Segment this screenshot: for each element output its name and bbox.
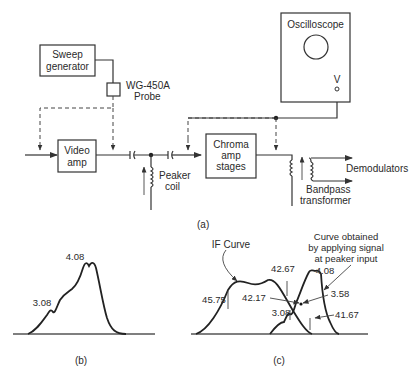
- bandpass-transformer: Bandpass transformer: [290, 157, 352, 206]
- c-marker-4-08: 4.08: [316, 265, 335, 276]
- chroma-alignment-diagram: Sweep generator WG-450A Probe Video amp: [0, 0, 420, 377]
- oscilloscope-title: Oscilloscope: [287, 19, 344, 30]
- peaker-curve-label-3: at peaker input: [315, 253, 378, 264]
- oscilloscope: Oscilloscope V: [281, 13, 350, 102]
- b-marker-3-08: 3.08: [33, 297, 52, 308]
- sweep-generator-label-2: generator: [46, 61, 89, 72]
- if-curve-label: IF Curve: [212, 239, 251, 250]
- scope-input-terminal: [335, 87, 339, 91]
- figure-a-block-diagram: Sweep generator WG-450A Probe Video amp: [25, 13, 408, 230]
- scope-input-label: V: [334, 74, 341, 85]
- c-marker-42-67: 42.67: [271, 263, 295, 274]
- chroma-amp-label-1: Chroma: [213, 139, 249, 150]
- c-marker-45-75: 45.75: [202, 294, 226, 305]
- chroma-amp-label-3: stages: [216, 161, 245, 172]
- chroma-amp-stages-block: Chroma amp stages: [206, 134, 256, 178]
- c-marker-42-17: 42.17: [242, 292, 266, 303]
- figure-b-caption: (b): [75, 355, 87, 366]
- peaker-coil-label-1: Peaker: [159, 170, 191, 181]
- c-marker-3-58: 3.58: [331, 288, 350, 299]
- video-amp-label-2: amp: [67, 157, 87, 168]
- curve-intersection-point: [299, 302, 302, 305]
- c-marker-3-08: 3.08: [272, 307, 291, 318]
- figure-a-caption: (a): [197, 219, 209, 230]
- probe-label-1: WG-450A: [126, 80, 170, 91]
- peaker-curve-label-2: by applying signal: [308, 242, 384, 253]
- chroma-amp-label-2: amp: [221, 150, 241, 161]
- sweep-generator-block: Sweep generator: [40, 45, 95, 76]
- bandpass-label-2: transformer: [300, 195, 352, 206]
- figure-c-if-and-peaker-curves: IF Curve Curve obtained by applying sign…: [191, 231, 384, 366]
- figure-c-caption: (c): [273, 355, 285, 366]
- wg450a-probe: WG-450A Probe: [107, 80, 170, 102]
- peaker-coil-label-2: coil: [165, 181, 180, 192]
- if-curve-pointer-arrow: [223, 250, 237, 281]
- bandpass-label-1: Bandpass: [306, 184, 350, 195]
- peaker-coil: Peaker coil: [144, 155, 191, 210]
- peaker-curve-label-1: Curve obtained: [314, 231, 378, 242]
- video-amp-label-1: Video: [64, 145, 90, 156]
- probe-label-2: Probe: [134, 91, 161, 102]
- c-marker-41-67: 41.67: [335, 309, 359, 320]
- b-marker-4-08: 4.08: [66, 251, 85, 262]
- sweep-generator-label-1: Sweep: [52, 49, 83, 60]
- demodulators-label: Demodulators: [346, 163, 408, 174]
- figure-b-response-curve: 4.08 3.08 (b): [13, 251, 155, 366]
- video-amp-block: Video amp: [58, 140, 96, 172]
